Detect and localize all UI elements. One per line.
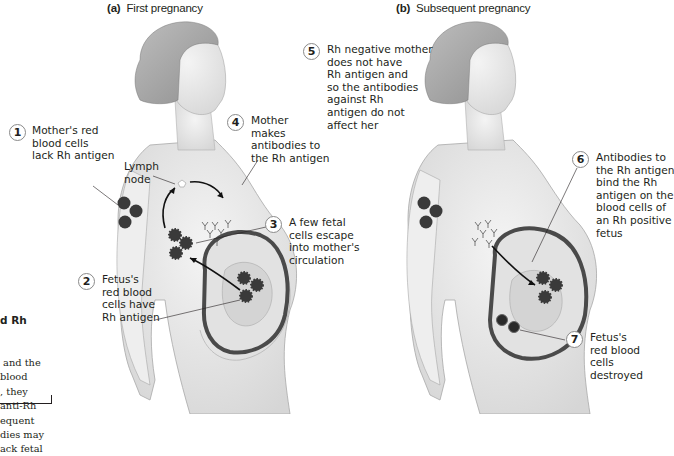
sidebar-caption: d Rh and the blood , they anti-Rh equent… [0,284,50,456]
panel-a-title-text: First pregnancy [126,2,202,14]
callout-text-3: A few fetal cells escape into mother's c… [289,216,360,266]
sidebar-divider-vertical [51,395,52,404]
lymph-node-label: Lymph node [124,160,159,185]
sidebar-heading: d Rh [0,313,50,327]
sidebar-text: and the blood , they anti-Rh equent dies… [0,356,50,456]
callout-text-1: Mother's red blood cells lack Rh antigen [32,124,114,162]
callout-number-1: 1 [9,124,26,141]
panel-a-title: (a)First pregnancy [107,2,203,14]
mother-figure-a [93,22,297,414]
callout-number-4: 4 [227,114,244,131]
mother-figure-b [407,22,597,414]
callout-number-6: 6 [572,151,589,168]
panel-b-title-text: Subsequent pregnancy [416,2,530,14]
callout-number-2: 2 [78,273,95,290]
callout-text-6: Antibodies to the Rh antigen bind the Rh… [596,151,674,239]
callout-number-3: 3 [265,216,282,233]
callout-text-5: Rh negative mother does not have Rh anti… [327,43,433,131]
callout-text-7: Fetus's red blood cells destroyed [590,331,643,381]
callout-number-5: 5 [303,43,320,60]
panel-b-letter: (b) [396,2,410,14]
panel-b-title: (b)Subsequent pregnancy [396,2,530,14]
callout-text-4: Mother makes antibodies to the Rh antige… [251,114,329,164]
callout-text-2: Fetus's red blood cells have Rh antigen [102,273,160,323]
panel-a-letter: (a) [107,2,120,14]
callout-number-7: 7 [566,331,583,348]
sidebar-divider [0,403,52,404]
